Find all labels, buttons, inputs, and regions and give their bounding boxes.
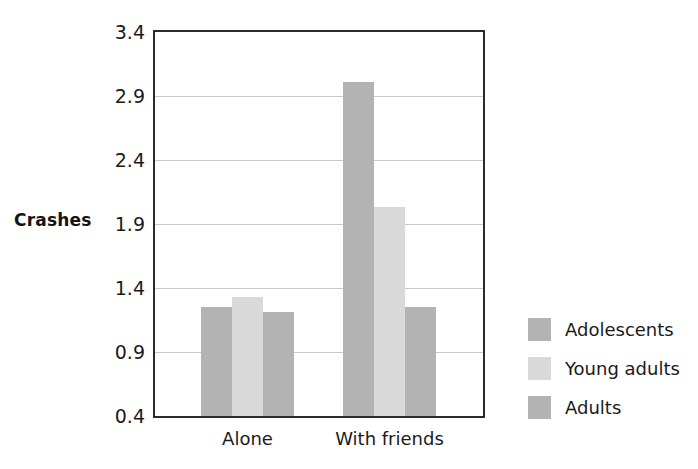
bar-alone-young-adults: [232, 297, 263, 416]
legend-item: Adolescents: [528, 310, 680, 349]
legend-item-label: Young adults: [565, 358, 680, 379]
bar-alone-adults: [263, 312, 294, 416]
gridline: [155, 224, 483, 225]
bar-with-friends-young-adults: [374, 207, 405, 416]
gridline: [155, 96, 483, 97]
bar-with-friends-adolescents: [343, 82, 374, 416]
gridline: [155, 288, 483, 289]
legend-swatch-icon: [528, 357, 551, 380]
legend-swatch-icon: [528, 318, 551, 341]
legend-item-label: Adolescents: [565, 319, 674, 340]
y-axis-tick-label: 0.4: [100, 405, 145, 427]
gridline: [155, 160, 483, 161]
y-axis-tick-label: 2.9: [100, 85, 145, 107]
bar-alone-adolescents: [201, 307, 232, 416]
x-axis-tick-label: Alone: [222, 428, 273, 449]
y-axis-tick-label: 3.4: [100, 21, 145, 43]
legend-item: Adults: [528, 388, 680, 427]
legend: AdolescentsYoung adultsAdults: [528, 310, 680, 427]
legend-item-label: Adults: [565, 397, 621, 418]
y-axis-tick-label: 0.9: [100, 341, 145, 363]
legend-swatch-icon: [528, 396, 551, 419]
legend-item: Young adults: [528, 349, 680, 388]
y-axis-tick-label: 1.4: [100, 277, 145, 299]
x-axis-tick-label: With friends: [335, 428, 444, 449]
bar-chart-figure: Crashes 0.40.91.41.92.42.93.4 AloneWith …: [0, 0, 698, 469]
y-axis-tick-label: 2.4: [100, 149, 145, 171]
plot-area: [153, 30, 485, 418]
y-axis-tick-label: 1.9: [100, 213, 145, 235]
bar-with-friends-adults: [405, 307, 436, 416]
